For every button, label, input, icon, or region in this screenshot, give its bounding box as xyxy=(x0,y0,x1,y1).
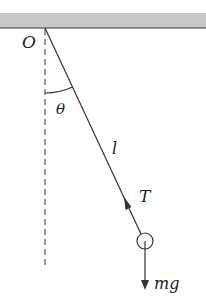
angle-label: θ xyxy=(56,100,65,118)
tension-label: T xyxy=(139,186,152,206)
ceiling-support xyxy=(0,13,206,28)
pivot-label: O xyxy=(22,32,36,52)
weight-label: mg xyxy=(154,274,179,293)
length-label: l xyxy=(112,139,117,158)
weight-arrowhead xyxy=(141,280,149,290)
angle-arc xyxy=(45,87,73,93)
tension-arrowhead xyxy=(124,197,132,210)
pendulum-diagram: O θ l T mg xyxy=(0,0,206,306)
